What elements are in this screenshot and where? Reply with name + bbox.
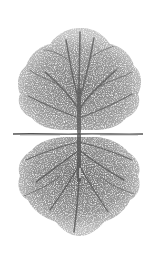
tree-illustration	[0, 0, 165, 254]
